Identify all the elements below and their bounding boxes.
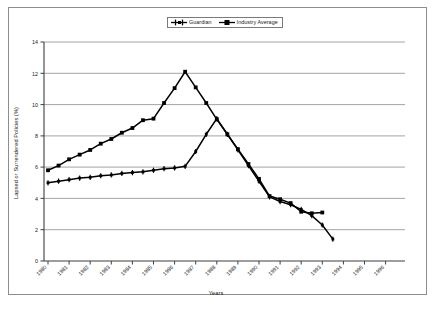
y-tick-label: 6: [35, 164, 38, 170]
x-tick-label: 1992: [288, 264, 301, 277]
x-tick-label: 1986: [162, 264, 175, 277]
data-point-marker: [152, 117, 156, 121]
data-point-marker: [141, 118, 145, 122]
legend-label-industry-average: Industry Average: [237, 20, 278, 25]
y-tick-label: 2: [35, 227, 38, 233]
x-tick-label: 1984: [119, 264, 132, 277]
chart-legend: Guardian Industry Average: [167, 17, 283, 28]
plot-background: [44, 42, 405, 261]
x-tick-label: 1985: [140, 264, 153, 277]
data-point-marker: [204, 101, 208, 105]
x-axis-tick-labels: 1980 1981 1982 1983 1984 1985 1986 1987 …: [35, 264, 385, 277]
data-point-marker: [67, 157, 71, 161]
y-tick-label: 10: [32, 102, 38, 108]
x-tick-label: 1994: [330, 264, 343, 277]
x-tick-label: 1981: [56, 264, 69, 277]
y-tick-label: 0: [35, 258, 38, 264]
legend-entry-guardian: Guardian: [171, 19, 212, 26]
x-tick-label: 1987: [183, 264, 196, 277]
data-point-marker: [173, 86, 177, 90]
x-tick-label: 1989: [225, 264, 238, 277]
y-tick-label: 12: [32, 71, 38, 77]
x-tick-label: 1983: [98, 264, 111, 277]
data-point-marker: [78, 153, 82, 157]
x-tick-label: 1982: [77, 264, 90, 277]
data-point-marker: [320, 211, 324, 215]
x-tick-label: 1993: [309, 264, 322, 277]
x-tick-label: 1988: [204, 264, 217, 277]
x-tick-label: 1995: [351, 264, 364, 277]
data-point-marker: [131, 126, 135, 130]
legend-entry-industry-average: Industry Average: [219, 19, 278, 26]
data-point-marker: [46, 168, 50, 172]
plus-line-marker-icon: [171, 19, 187, 26]
legend-label-guardian: Guardian: [189, 20, 212, 25]
data-point-marker: [120, 131, 124, 135]
page-caption-partial: [40, 306, 425, 314]
y-tick-label: 8: [35, 133, 38, 139]
data-point-marker: [57, 164, 61, 168]
data-point-marker: [99, 142, 103, 146]
square-line-marker-icon: [219, 19, 235, 26]
y-axis-title: Lapsed or Surrendered Policies (%): [13, 88, 19, 218]
y-axis-tick-labels: 14 12 10 8 6 4 2 0: [32, 39, 38, 264]
y-tick-label: 14: [32, 39, 38, 45]
y-tick-label: 4: [35, 196, 38, 202]
x-tick-label: 1996: [373, 264, 386, 277]
data-point-marker: [162, 101, 166, 105]
line-chart-plot: 14 12 10 8 6 4 2 0: [0, 0, 435, 314]
data-point-marker: [194, 85, 198, 89]
data-point-marker: [109, 137, 113, 141]
chart-figure: 14 12 10 8 6 4 2 0: [0, 0, 435, 314]
data-point-marker: [183, 70, 187, 74]
data-point-marker: [88, 148, 92, 152]
x-axis-title: Years: [186, 290, 246, 296]
x-tick-label: 1991: [267, 264, 280, 277]
x-tick-label: 1990: [246, 264, 259, 277]
x-tick-label: 1980: [35, 264, 48, 277]
